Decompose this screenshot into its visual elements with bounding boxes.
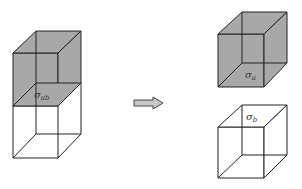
diagram-canvas: σab σa σb: [0, 0, 302, 189]
right-arrow-icon: [134, 97, 163, 109]
